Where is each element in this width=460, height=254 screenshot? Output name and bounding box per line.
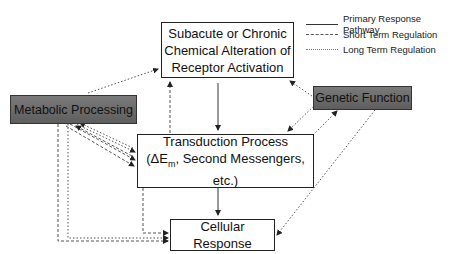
transduction-line-2: (ΔEm, Second Messengers, etc.) (138, 150, 313, 190)
receptor-line-1: Subacute or Chronic (168, 25, 287, 42)
legend-long-term: Long Term Regulation (306, 44, 436, 55)
cellular-response-box: Cellular Response (170, 219, 275, 251)
transduction-line-1: Transduction Process (163, 133, 288, 150)
legend-short-term: Short Term Regulation (306, 29, 437, 40)
dashed-line-swatch (306, 34, 338, 35)
transduction-process-box: Transduction Process (ΔEm, Second Messen… (137, 134, 314, 188)
genetic-function-box: Genetic Function (313, 86, 412, 110)
cellular-label: Cellular Response (171, 218, 274, 252)
receptor-line-3: Receptor Activation (171, 59, 283, 76)
solid-line-swatch (306, 24, 338, 25)
metabolic-processing-box: Metabolic Processing (10, 95, 137, 124)
dotted-line-swatch (306, 49, 338, 50)
genetic-label: Genetic Function (315, 91, 410, 105)
receptor-line-2: Chemical Alteration of (164, 42, 290, 59)
metabolic-label: Metabolic Processing (14, 103, 133, 117)
receptor-activation-box: Subacute or Chronic Chemical Alteration … (161, 22, 294, 78)
